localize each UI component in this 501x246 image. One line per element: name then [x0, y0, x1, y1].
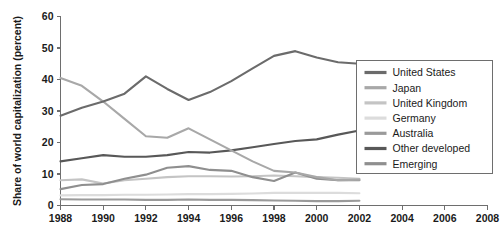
legend-label-other-developed: Other developed — [393, 142, 471, 154]
y-tick-label: 60 — [42, 10, 54, 22]
y-tick-label: 30 — [42, 105, 54, 117]
x-tick-label: 2004 — [390, 212, 414, 224]
legend-label-united-states: United States — [393, 66, 456, 78]
series-line-japan — [61, 78, 360, 180]
series-line-australia — [61, 199, 360, 201]
y-tick-label: 50 — [42, 42, 54, 54]
series-line-other-developed — [61, 131, 360, 162]
legend-label-emerging: Emerging — [393, 158, 438, 170]
series-line-united-states — [61, 51, 360, 116]
chart-figure: Share of world capitalization (percent) … — [0, 0, 501, 246]
x-tick-label: 2006 — [433, 212, 457, 224]
x-tick-label: 1994 — [177, 212, 201, 224]
legend-label-germany: Germany — [393, 112, 437, 124]
chart-series — [61, 51, 360, 201]
legend-label-japan: Japan — [393, 82, 422, 94]
y-tick-label: 20 — [42, 136, 54, 148]
line-chart: Share of world capitalization (percent) … — [0, 0, 501, 246]
x-tick-label: 1998 — [262, 212, 286, 224]
y-axis-title: Share of world capitalization (percent) — [11, 16, 23, 206]
legend-label-united-kingdom: United Kingdom — [393, 97, 468, 109]
y-axis-label: Share of world capitalization (percent) — [11, 16, 23, 206]
x-tick-label: 2002 — [348, 212, 372, 224]
x-tick-label: 1990 — [92, 212, 116, 224]
series-line-germany — [61, 193, 360, 196]
legend-label-australia: Australia — [393, 127, 434, 139]
x-tick-label: 2000 — [305, 212, 329, 224]
y-tick-label: 10 — [42, 168, 54, 180]
x-tick-label: 1996 — [220, 212, 244, 224]
x-tick-label: 2008 — [476, 212, 500, 224]
x-tick-label: 1992 — [134, 212, 158, 224]
x-tick-label: 1988 — [49, 212, 73, 224]
y-tick-label: 40 — [42, 73, 54, 85]
chart-legend: United StatesJapanUnited KingdomGermanyA… — [357, 61, 493, 174]
y-tick-label: 0 — [48, 199, 54, 211]
